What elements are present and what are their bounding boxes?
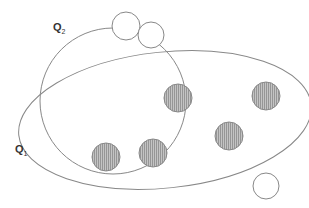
open-point-6 xyxy=(138,22,164,48)
label-q2: Q2 xyxy=(53,21,65,35)
filled-point-0 xyxy=(164,84,192,112)
filled-point-2 xyxy=(215,122,243,150)
filled-point-3 xyxy=(139,139,167,167)
diagram-canvas xyxy=(0,0,309,208)
filled-point-1 xyxy=(252,82,280,110)
label-q1: Q1 xyxy=(15,143,27,157)
open-point-5 xyxy=(112,12,140,40)
filled-point-4 xyxy=(92,143,120,171)
set-diagram: Q2 Q1 xyxy=(0,0,309,208)
open-point-7 xyxy=(253,173,279,199)
